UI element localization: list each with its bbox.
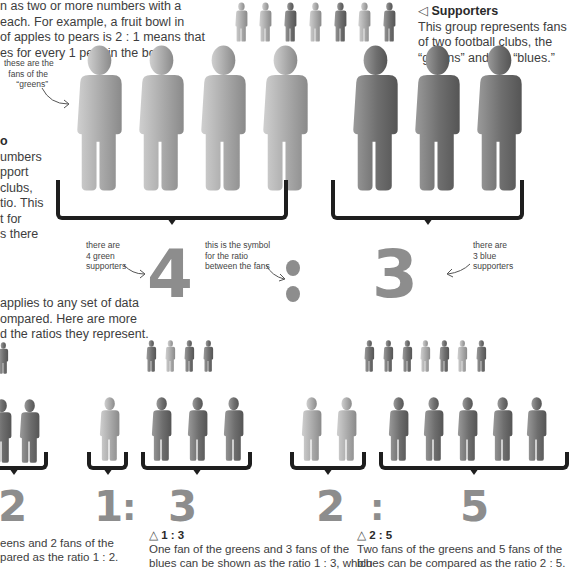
caption-line: eens and 2 fans of the [0,536,118,550]
person-icon [381,340,395,372]
side-box-line: umbers [0,150,44,166]
person-icon [163,340,177,372]
example-1-numeral: 2 [0,486,27,528]
side-box-line: pport [0,165,44,181]
person-icon [362,340,376,372]
mid-line: applies to any set of data [0,296,149,312]
example-3-right-numeral: 5 [460,486,489,528]
side-box-line: tio. This [0,196,44,212]
caption-line: Two fans of the greens and 5 fans of the [357,542,565,556]
blue-count-numeral: 3 [372,242,418,308]
main-figure-group [60,44,560,194]
side-box-line: t for [0,212,44,228]
ratio-symbol-annotation: this is the symbol for the ratio between… [205,240,270,272]
example-2-right-numeral: 3 [168,486,197,528]
annotation-line: fans of the [4,69,48,80]
intro-line: each. For example, a fruit bowl in [0,15,205,31]
side-box-line: s there [0,227,44,243]
blue-fan-figure [468,44,528,192]
blue-fan-figure [344,44,404,192]
intro-line: n as two or more numbers with a [0,0,205,15]
annotation-line: 3 blue [473,251,513,262]
curved-arrow-icon [122,262,148,282]
person-icon [232,2,250,42]
example-2-caption: △ 1 : 3 One fan of the greens and 3 fans… [149,528,372,570]
example-3-colon: : [370,490,384,526]
green-fan-figure [130,44,190,192]
example-2-colon: : [122,490,136,526]
caption-line: One fan of the greens and 3 fans of the [149,542,372,556]
person-icon [437,340,451,372]
green-count-numeral: 4 [147,242,193,308]
green-count-annotation: there are 4 green supporters [86,240,126,272]
supporters-title: Supporters [431,4,498,18]
example-3-left-numeral: 2 [316,486,345,528]
person-icon [400,340,414,372]
annotation-line: supporters [473,261,513,272]
annotation-line: between the fans [205,261,270,272]
mid-line: ompared. Here are more [0,312,149,328]
blue-count-annotation: there are 3 blue supporters [473,240,513,272]
annotation-line: this is the symbol [205,240,270,251]
greens-bracket [56,180,288,220]
triangle-left-icon: ◁ [418,4,428,18]
person-icon [355,2,373,42]
person-icon [182,340,196,372]
caption-title: 1 : 3 [161,529,184,541]
curved-arrow-icon [444,262,472,278]
example-3-blue-bracket [379,452,569,470]
example-2-left-numeral: 1 [94,486,123,528]
annotation-line: these are the [4,58,48,69]
side-box-text: o umbers pport clubs, tio. This t for s … [0,134,44,243]
caption-line: This group represents fans [418,20,567,36]
blues-bracket [331,180,524,220]
example-1-bracket [0,452,48,470]
person-icon [455,340,469,372]
person-icon [331,2,349,42]
person-icon [306,2,324,42]
person-icon [281,2,299,42]
caption-line: blues can be compared as the ratio 2 : 5… [357,556,565,570]
example-2-green-bracket [87,452,128,470]
side-box-line: clubs, [0,181,44,197]
green-fan-figure [254,44,314,192]
triangle-up-icon: △ [357,529,366,541]
person-icon [380,2,398,42]
annotation-line: for the ratio [205,251,270,262]
person-icon [256,2,274,42]
caption-line: pared as the ratio 1 : 2. [0,550,118,564]
example-3-green-bracket [290,452,366,470]
person-icon [418,340,432,372]
example-1-caption: eens and 2 fans of the pared as the rati… [0,536,118,564]
blue-fan-figure [406,44,466,192]
side-box-title: o [0,134,44,150]
example-3-caption: △ 2 : 5 Two fans of the greens and 5 fan… [357,528,565,570]
annotation-line: there are [473,240,513,251]
person-icon [201,340,215,372]
person-icon [0,342,10,374]
ratio-colon [286,260,300,302]
green-fan-figure [68,44,128,192]
annotation-line: supporters [86,261,126,272]
triangle-up-icon: △ [149,529,158,541]
example-2-blue-bracket [141,452,252,470]
small-figure-row [232,2,412,42]
person-icon [144,340,158,372]
annotation-line: 4 green [86,251,126,262]
caption-title: 2 : 5 [369,529,392,541]
green-fan-figure [192,44,252,192]
annotation-line: there are [86,240,126,251]
caption-line: blues can be shown as the ratio 1 : 3, w… [149,556,372,570]
person-icon [474,340,488,372]
